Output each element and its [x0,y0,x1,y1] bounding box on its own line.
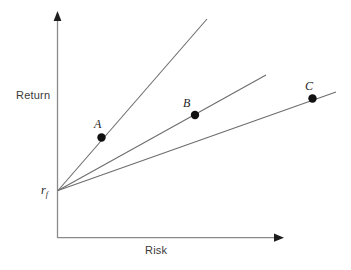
data-point-label-c: C [305,79,313,94]
x-axis-arrow-icon [274,234,284,242]
cal-line-b [58,75,266,191]
risk-return-diagram: Return Risk rf A B C [0,0,351,270]
y-axis-label: Return [16,89,50,101]
y-axis-arrow-icon [54,11,62,21]
data-point-label-b: B [183,96,190,111]
risk-free-rate-label: rf [41,183,48,199]
data-point-c [308,94,316,102]
data-point-a [97,133,105,141]
x-axis-label: Risk [145,244,167,256]
data-point-b [191,111,199,119]
diagram-canvas [0,0,351,270]
data-point-label-a: A [94,117,101,132]
risk-free-rate-subscript: f [46,190,48,199]
